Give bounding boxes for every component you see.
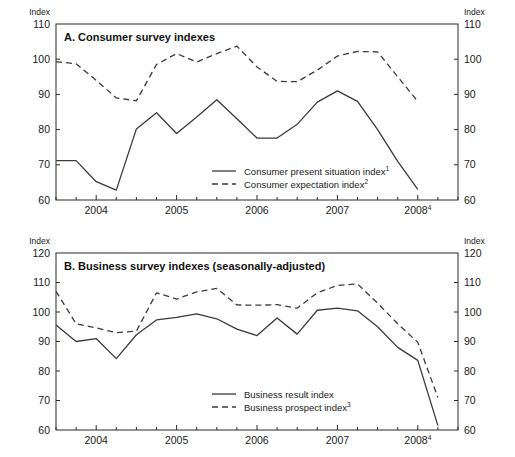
panel-title: B. Business survey indexes (seasonally-a…: [64, 260, 325, 272]
y-tick-label-right: 110: [464, 276, 481, 288]
y-axis-unit-right: Index: [464, 7, 486, 17]
figure-consumer-business-survey-indexes: 6060707080809090100100110110IndexIndex20…: [0, 0, 515, 457]
y-tick-label-left: 110: [33, 276, 50, 288]
x-tick-label: 2005: [165, 204, 189, 216]
panel-a-svg: 6060707080809090100100110110IndexIndex20…: [0, 0, 515, 228]
x-tick-label: 2004: [85, 434, 109, 446]
y-tick-label-left: 70: [38, 158, 50, 170]
y-tick-label-right: 70: [464, 394, 476, 406]
y-tick-label-right: 60: [464, 194, 476, 206]
y-tick-label-left: 120: [32, 247, 50, 259]
y-tick-label-left: 100: [32, 306, 50, 318]
series-line-2: [56, 46, 418, 101]
panel-title: A. Consumer survey indexes: [64, 31, 215, 43]
y-tick-label-right: 70: [464, 158, 476, 170]
legend-label-2: Consumer expectation index2: [244, 178, 368, 190]
y-axis-unit-right: Index: [464, 236, 486, 246]
y-tick-label-right: 90: [464, 335, 476, 347]
legend-label-superscript: 3: [347, 401, 351, 408]
y-tick-label-left: 110: [33, 18, 50, 30]
y-tick-label-right: 110: [464, 18, 481, 30]
y-tick-label-left: 100: [32, 53, 50, 65]
panel-b-svg: 6060707080809090100100110110120120IndexI…: [0, 228, 515, 457]
y-tick-label-right: 100: [464, 306, 482, 318]
y-tick-label-left: 90: [38, 88, 50, 100]
x-tick-label: 2005: [165, 434, 189, 446]
y-tick-label-right: 100: [464, 53, 482, 65]
x-tick-label: 2006: [245, 204, 269, 216]
y-axis-unit-left: Index: [29, 7, 51, 17]
legend-label-1: Consumer present situation index1: [244, 165, 390, 177]
y-tick-label-left: 80: [38, 123, 50, 135]
y-tick-label-left: 60: [38, 194, 50, 206]
x-tick-label-superscript: 4: [428, 204, 432, 211]
x-tick-label: 20084: [404, 204, 431, 216]
legend-label-superscript: 2: [364, 178, 368, 185]
x-tick-label: 2006: [245, 434, 269, 446]
y-tick-label-right: 90: [464, 88, 476, 100]
y-tick-label-right: 80: [464, 123, 476, 135]
x-tick-label: 20084: [404, 434, 431, 446]
chart-panel-b: 6060707080809090100100110110120120IndexI…: [0, 228, 515, 457]
chart-panel-a: 6060707080809090100100110110IndexIndex20…: [0, 0, 515, 228]
y-axis-unit-left: Index: [29, 236, 51, 246]
x-tick-label: 2007: [326, 434, 350, 446]
y-tick-label-right: 120: [464, 247, 482, 259]
y-tick-label-left: 80: [38, 365, 50, 377]
y-tick-label-right: 80: [464, 365, 476, 377]
series-line-2: [56, 284, 438, 398]
y-tick-label-left: 60: [38, 424, 50, 436]
y-tick-label-left: 90: [38, 335, 50, 347]
x-tick-label: 2004: [85, 204, 109, 216]
x-tick-label: 2007: [326, 204, 350, 216]
x-tick-label-superscript: 4: [428, 434, 432, 441]
legend-label-1: Business result index: [244, 389, 334, 400]
legend-label-2: Business prospect index3: [244, 401, 351, 413]
y-tick-label-left: 70: [38, 394, 50, 406]
y-tick-label-right: 60: [464, 424, 476, 436]
legend-label-superscript: 1: [386, 165, 390, 172]
